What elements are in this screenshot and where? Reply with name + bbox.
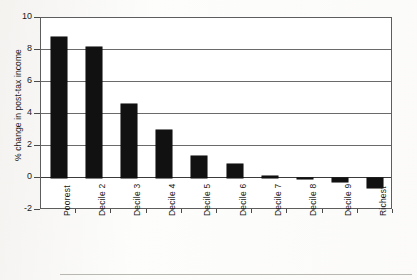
x-label-poorest: Poorest bbox=[62, 152, 72, 216]
y-axis-title: % change in post-tax income bbox=[13, 25, 23, 185]
x-tick-mark-4 bbox=[216, 209, 217, 213]
bar-chart-figure: 10 8 6 4 2 0 -2 % change in post-tax inc… bbox=[0, 0, 417, 280]
x-label-richest: Richest bbox=[378, 152, 388, 216]
x-label-decile-4: Decile 4 bbox=[167, 152, 177, 216]
x-tick-mark-6 bbox=[286, 209, 287, 213]
x-tick-mark-5 bbox=[251, 209, 252, 213]
x-tick-mark-1 bbox=[110, 209, 111, 213]
x-tick-mark-7 bbox=[322, 209, 323, 213]
scan-edge-line bbox=[60, 274, 412, 275]
x-axis-tick-labels: Poorest Decile 2 Decile 3 Decile 4 Decil… bbox=[40, 214, 392, 278]
x-tick-mark-9 bbox=[392, 209, 393, 213]
x-label-decile-2: Decile 2 bbox=[97, 152, 107, 216]
x-tick-mark-3 bbox=[181, 209, 182, 213]
y-tick-label-10: 10 bbox=[2, 12, 32, 21]
x-tick-mark-0 bbox=[75, 209, 76, 213]
x-tick-mark-2 bbox=[146, 209, 147, 213]
x-label-decile-5: Decile 5 bbox=[202, 152, 212, 216]
x-tick-mark-8 bbox=[357, 209, 358, 213]
x-label-decile-3: Decile 3 bbox=[132, 152, 142, 216]
x-label-decile-9: Decile 9 bbox=[343, 152, 353, 216]
x-label-decile-6: Decile 6 bbox=[238, 152, 248, 216]
y-tick-label-neg2: -2 bbox=[2, 204, 32, 213]
x-label-decile-8: Decile 8 bbox=[308, 152, 318, 216]
plot-area bbox=[40, 17, 392, 209]
x-label-decile-7: Decile 7 bbox=[273, 152, 283, 216]
